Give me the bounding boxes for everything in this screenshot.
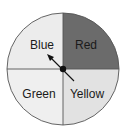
center-pivot-icon [60,66,66,72]
spinner-diagram: Blue Red Green Yellow [0,0,131,129]
label-blue: Blue [30,38,54,52]
label-yellow: Yellow [70,87,105,101]
label-red: Red [75,38,97,52]
label-green: Green [22,87,55,101]
